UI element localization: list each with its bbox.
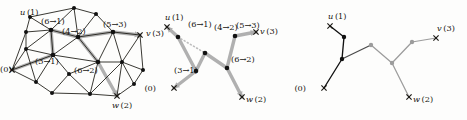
terminal-label-u: u(1) bbox=[328, 11, 346, 21]
graph-edge bbox=[69, 74, 90, 94]
highlight-stroke bbox=[98, 62, 117, 96]
terminal-label-w: w(2) bbox=[413, 94, 433, 104]
terminal-index: (1) bbox=[335, 11, 347, 21]
graph-edge bbox=[12, 70, 36, 82]
edge-label-6-1: (6→1) bbox=[41, 16, 65, 26]
terminal-label-(: (0) bbox=[144, 83, 156, 93]
graph-vertex bbox=[141, 68, 145, 72]
panel-labeled-skeleton-tree: u(1)v(3)w(2)(0)(6→1)(4→2)(5→3)(3→1)(6→2) bbox=[158, 0, 308, 120]
tree-node-dark bbox=[340, 57, 344, 61]
graph-edge bbox=[53, 37, 78, 55]
tree-node-layer bbox=[321, 23, 438, 99]
terminal-label-(: (0) bbox=[294, 83, 306, 93]
graph-edge bbox=[26, 30, 51, 32]
skeleton-branch-node bbox=[225, 66, 230, 71]
terminal-index: (3) bbox=[266, 26, 278, 36]
graph-edge bbox=[74, 8, 96, 14]
graph-vertex bbox=[24, 30, 28, 34]
graph-edge bbox=[122, 35, 140, 62]
graph-vertex bbox=[111, 30, 116, 35]
terminal-index: (3) bbox=[443, 23, 455, 33]
graph-edge bbox=[26, 17, 30, 32]
graph-edge bbox=[113, 32, 122, 62]
graph-vertex bbox=[120, 60, 124, 64]
terminal-symbol: v bbox=[437, 23, 442, 33]
tree-edge-link bbox=[342, 45, 371, 59]
graph-label-layer: u(1)v(3)w(2)(0)(6→1)(4→2)(5→3)(3→1)(6→2) bbox=[0, 7, 164, 110]
skeleton-edge-label-5: (6→2) bbox=[231, 54, 255, 64]
figure-container: u(1)v(3)w(2)(0)(6→1)(4→2)(5→3)(3→1)(6→2)… bbox=[0, 0, 467, 120]
graph-edge bbox=[122, 62, 134, 84]
terminal-index: (2) bbox=[422, 94, 434, 104]
terminal-symbol: v bbox=[146, 28, 151, 38]
terminal-index: (2) bbox=[255, 94, 267, 104]
terminal-label-w: w(2) bbox=[246, 94, 266, 104]
terminal-symbol: v bbox=[260, 26, 265, 36]
skeleton-edge bbox=[227, 68, 242, 97]
panel-triangulated-graph: u(1)v(3)w(2)(0)(6→1)(4→2)(5→3)(3→1)(6→2) bbox=[0, 0, 158, 120]
terminal-symbol: u bbox=[165, 12, 170, 22]
terminal-index: (1) bbox=[172, 12, 184, 22]
terminal-label-v: v(3) bbox=[437, 23, 455, 33]
triangulated-graph-svg: u(1)v(3)w(2)(0)(6→1)(4→2)(5→3)(3→1)(6→2) bbox=[0, 0, 158, 120]
graph-vertex bbox=[72, 6, 76, 10]
skeleton-edge bbox=[205, 53, 227, 68]
terminal-symbol: w bbox=[413, 94, 420, 104]
terminal-label-v: v(3) bbox=[260, 26, 278, 36]
graph-vertex bbox=[50, 91, 54, 95]
tree-edge-light bbox=[371, 45, 392, 63]
graph-vertex bbox=[96, 60, 101, 65]
terminal-index: (1) bbox=[27, 7, 39, 17]
graph-edge bbox=[26, 30, 51, 49]
terminal-label-u: u(1) bbox=[20, 7, 38, 17]
tree-node-light bbox=[390, 61, 394, 65]
terminal-label-root: (0) bbox=[0, 64, 12, 74]
terminal-marker bbox=[406, 94, 411, 99]
edge-label-6-2: (6→2) bbox=[74, 65, 98, 75]
skeleton-edge-label-2: (4→2) bbox=[214, 22, 238, 32]
graph-edge bbox=[117, 62, 122, 96]
graph-vertex bbox=[88, 92, 92, 96]
graph-vertex bbox=[49, 28, 54, 33]
skeleton-branch-node bbox=[203, 51, 208, 56]
graph-edge bbox=[52, 74, 69, 93]
graph-vertex bbox=[94, 12, 98, 16]
terminal-symbol: w bbox=[112, 100, 119, 110]
skeleton-edge-label-4: (3→1) bbox=[174, 65, 198, 75]
terminal-label-u: u(1) bbox=[165, 12, 183, 22]
graph-vertex bbox=[24, 47, 28, 51]
edge-label-3-1: (3→1) bbox=[35, 56, 59, 66]
graph-edge bbox=[26, 49, 53, 55]
graph-edge bbox=[90, 94, 117, 96]
graph-edge bbox=[140, 35, 143, 70]
terminal-label-w: w(2) bbox=[112, 100, 132, 110]
tree-node-light bbox=[410, 40, 414, 44]
tree-edge-dark bbox=[324, 59, 342, 88]
terminal-symbol: u bbox=[20, 7, 25, 17]
panel-two-colored-tree: u(1)(0)v(3)w(2) bbox=[308, 0, 467, 120]
skeleton-edge bbox=[235, 30, 256, 36]
highlight-path-segment bbox=[98, 62, 117, 96]
skeleton-branch-node bbox=[176, 35, 181, 40]
tree-edge-light bbox=[412, 38, 436, 42]
edge-label-5-3: (5→3) bbox=[103, 19, 127, 29]
highlight-stroke bbox=[205, 53, 227, 68]
terminal-marker bbox=[327, 23, 332, 28]
terminal-index: (2) bbox=[121, 100, 133, 110]
terminal-marker bbox=[321, 85, 326, 90]
graph-edge bbox=[134, 70, 143, 84]
two-colored-tree-svg: u(1)(0)v(3)w(2) bbox=[308, 0, 467, 120]
skeleton-branch-node bbox=[233, 34, 238, 39]
graph-vertex bbox=[34, 80, 38, 84]
graph-edge bbox=[98, 32, 113, 62]
graph-edge bbox=[36, 82, 52, 93]
tree-edge-light bbox=[392, 63, 409, 97]
terminal-symbol: u bbox=[328, 11, 333, 21]
graph-edge bbox=[122, 62, 143, 70]
tree-edge-dark bbox=[342, 37, 344, 59]
graph-edge bbox=[52, 93, 90, 94]
skeleton-edge-label-3: (5→3) bbox=[236, 20, 260, 30]
tree-edge-layer bbox=[324, 26, 436, 97]
tree-label-layer: u(1)(0)v(3)w(2) bbox=[294, 11, 454, 104]
skeleton-tree-svg: u(1)v(3)w(2)(0)(6→1)(4→2)(5→3)(3→1)(6→2) bbox=[158, 0, 308, 120]
